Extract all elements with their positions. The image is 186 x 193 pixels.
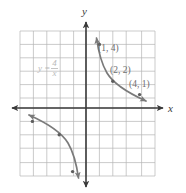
plot-point-neg4-neg1 xyxy=(31,120,34,123)
equation-lhs: y = xyxy=(38,63,50,73)
hyperbola-branch-negative xyxy=(29,115,79,178)
plot-point-neg1-neg4 xyxy=(71,170,74,173)
plot-point-2-2 xyxy=(111,80,114,83)
plot-point-4-1 xyxy=(138,93,141,96)
equation-denominator: x xyxy=(51,69,58,78)
plot-point-neg2-neg2 xyxy=(58,133,61,136)
coordinate-plane-svg xyxy=(0,0,186,193)
y-axis-label: y xyxy=(82,6,87,17)
point-label-1-4: (1, 4) xyxy=(98,44,119,54)
point-label-2-2: (2, 2) xyxy=(110,66,131,76)
equation-label: y =4x xyxy=(38,59,58,79)
graph-figure: y x y =4x (1, 4) (2, 2) (4, 1) xyxy=(0,0,186,193)
grid-lines xyxy=(20,31,155,176)
point-label-4-1: (4, 1) xyxy=(129,80,150,90)
equation-fraction: 4x xyxy=(51,59,58,79)
x-axis-label: x xyxy=(168,103,173,114)
